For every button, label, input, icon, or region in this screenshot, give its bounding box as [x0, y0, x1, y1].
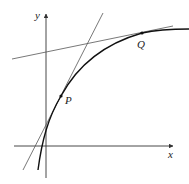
tangent-line-q [12, 26, 173, 59]
tangent-diagram: y x P Q [0, 0, 189, 184]
point-p-label: P [64, 94, 72, 106]
point-q-label: Q [137, 38, 145, 50]
y-axis-label: y [34, 9, 40, 21]
x-axis-label: x [167, 148, 173, 160]
curve [38, 29, 189, 170]
point-q [140, 31, 143, 34]
point-p [59, 94, 62, 97]
